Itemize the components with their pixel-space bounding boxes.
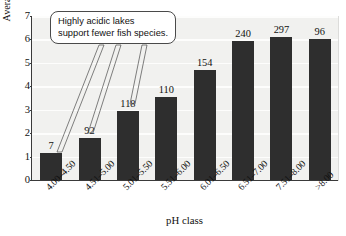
bar-value-label: 118 <box>120 98 135 109</box>
x-axis-title: pH class <box>31 214 338 226</box>
bar-value-label: 110 <box>159 84 174 95</box>
bar-value-label: 7 <box>49 140 54 151</box>
y-tick-label: 2 <box>8 128 30 138</box>
y-tick-label: 7 <box>8 11 30 21</box>
bar-value-label: 297 <box>274 24 290 35</box>
y-tick-label: 0 <box>8 175 30 185</box>
plot-right-edge <box>338 16 339 181</box>
bar-value-label: 240 <box>235 28 251 39</box>
callout-line-2: support fewer fish species. <box>58 28 175 40</box>
bar-value-label: 96 <box>315 26 325 37</box>
bar-slot: 297 <box>262 16 300 180</box>
y-tick-label: 1 <box>8 152 30 162</box>
bar-value-label: 92 <box>84 125 94 136</box>
bar[interactable] <box>194 70 216 180</box>
bar[interactable] <box>232 41 254 180</box>
y-axis-ticks: 01234567 <box>6 0 30 236</box>
bar-slot: 96 <box>301 16 339 180</box>
bar[interactable] <box>270 37 292 180</box>
bar[interactable] <box>309 39 331 180</box>
bar-value-label: 154 <box>197 57 213 68</box>
y-tick-label: 5 <box>8 58 30 68</box>
bar-slot: 154 <box>186 16 224 180</box>
bar-slot: 240 <box>224 16 262 180</box>
callout-line-1: Highly acidic lakes <box>58 16 175 28</box>
fish-species-ph-bar-chart: Average number of fish species 01234567 … <box>0 0 346 236</box>
acidic-lakes-callout: Highly acidic lakes support fewer fish s… <box>50 11 176 44</box>
y-tick-label: 4 <box>8 81 30 91</box>
y-tick-label: 6 <box>8 34 30 44</box>
y-tick-label: 3 <box>8 105 30 115</box>
